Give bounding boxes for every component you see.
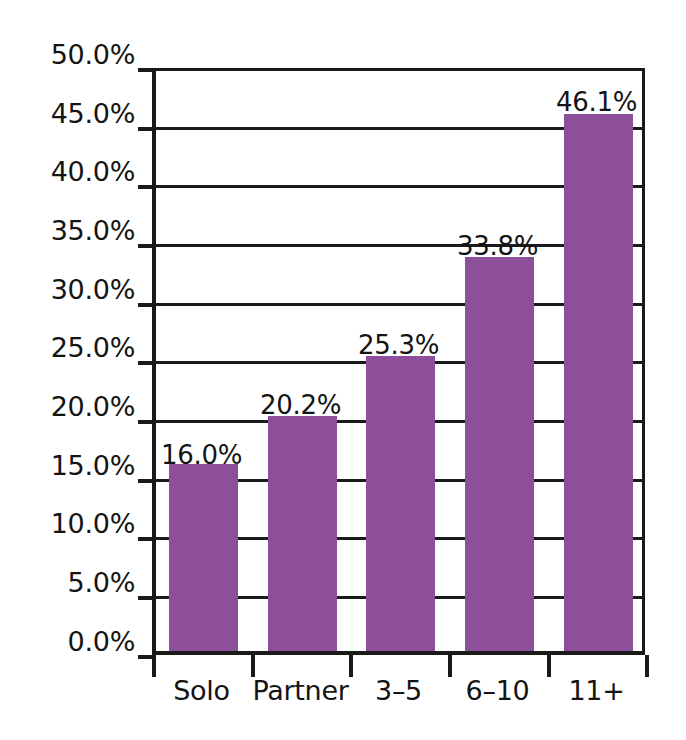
y-axis-label-0: 0.0% [68,628,135,655]
y-axis-label-50: 50.0% [51,41,135,68]
bar-3-5[interactable] [366,356,435,651]
y-axis-tick-40 [138,185,152,189]
x-axis-tick-2 [349,655,353,677]
y-axis-tick-45 [138,127,152,131]
y-axis-label-40: 40.0% [51,158,135,185]
y-axis-tick-5 [138,596,152,600]
bar-value-solo: 16.0% [152,442,251,468]
y-axis-label-20: 20.0% [51,393,135,420]
y-axis-label-10: 10.0% [51,510,135,537]
bar-partner[interactable] [268,416,337,652]
x-axis-label-3-5: 3–5 [349,676,448,706]
y-axis-label-5: 5.0% [68,569,135,596]
y-axis-label-25: 25.0% [51,334,135,361]
y-axis-tick-0 [138,655,152,659]
y-axis-tick-10 [138,537,152,541]
x-axis-tick-3 [448,655,452,677]
x-axis-label-partner: Partner [251,676,350,706]
x-axis-tick-1 [251,655,255,677]
x-axis-tick-4 [547,655,551,677]
bar-solo[interactable] [169,464,238,651]
y-axis-tick-15 [138,479,152,483]
y-axis-tick-20 [138,420,152,424]
x-axis-label-11-plus: 11+ [547,676,646,706]
x-axis-tick-5 [645,655,649,677]
y-axis-tick-50 [138,68,152,72]
plot-area [152,68,645,655]
y-axis-tick-30 [138,303,152,307]
x-axis-tick-0 [152,655,156,677]
y-axis-tick-35 [138,244,152,248]
bar-6-10[interactable] [465,257,534,651]
y-axis-label-30: 30.0% [51,276,135,303]
bar-value-6-10: 33.8% [448,233,547,259]
y-axis-tick-25 [138,361,152,365]
x-axis-label-solo: Solo [152,676,251,706]
bar-value-partner: 20.2% [251,392,350,418]
y-axis-label-15: 15.0% [51,452,135,479]
bar-value-11-plus: 46.1% [547,89,646,115]
y-axis-label-35: 35.0% [51,217,135,244]
bar-value-3-5: 25.3% [349,332,448,358]
y-axis-label-45: 45.0% [51,100,135,127]
bar-chart: 50.0% 45.0% 40.0% 35.0% 30.0% 25.0% 20.0… [0,0,686,740]
bar-11-plus[interactable] [564,114,633,652]
x-axis-label-6-10: 6–10 [448,676,547,706]
